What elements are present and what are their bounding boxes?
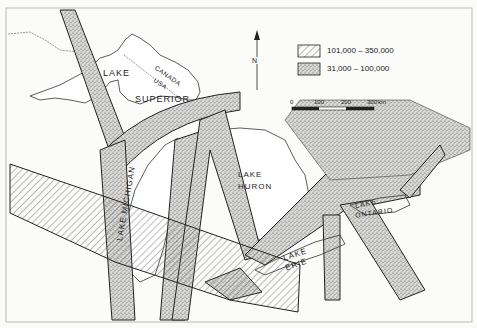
scale-bar <box>292 107 374 110</box>
map-graphic <box>0 0 477 328</box>
band-east-block <box>285 100 470 180</box>
legend-swatch-hatched <box>298 45 320 57</box>
scale-tick-0: 0 <box>290 99 293 105</box>
label-lake-huron-1: LAKE <box>238 170 262 179</box>
legend-label-stippled: 31,000 – 100,000 <box>327 64 389 73</box>
scale-unit: km <box>378 99 386 105</box>
legend-swatch-stippled <box>298 63 320 75</box>
band-ontario-south <box>340 200 425 300</box>
scale-tick-100: 100 <box>314 99 324 105</box>
legend-label-hatched: 101,000 – 350,000 <box>327 46 394 55</box>
band-vertical-erie <box>323 215 340 300</box>
label-lake-superior-1: LAKE <box>103 68 130 78</box>
north-label: N <box>252 57 258 64</box>
great-lakes-map: LAKE SUPERIOR LAKE MICHIGAN LAKE HURON L… <box>0 0 477 328</box>
label-lake-huron-2: HURON <box>238 182 272 191</box>
scale-tick-300: 300 <box>367 99 377 105</box>
label-lake-superior-2: SUPERIOR <box>135 94 190 104</box>
scale-tick-200: 200 <box>341 99 351 105</box>
